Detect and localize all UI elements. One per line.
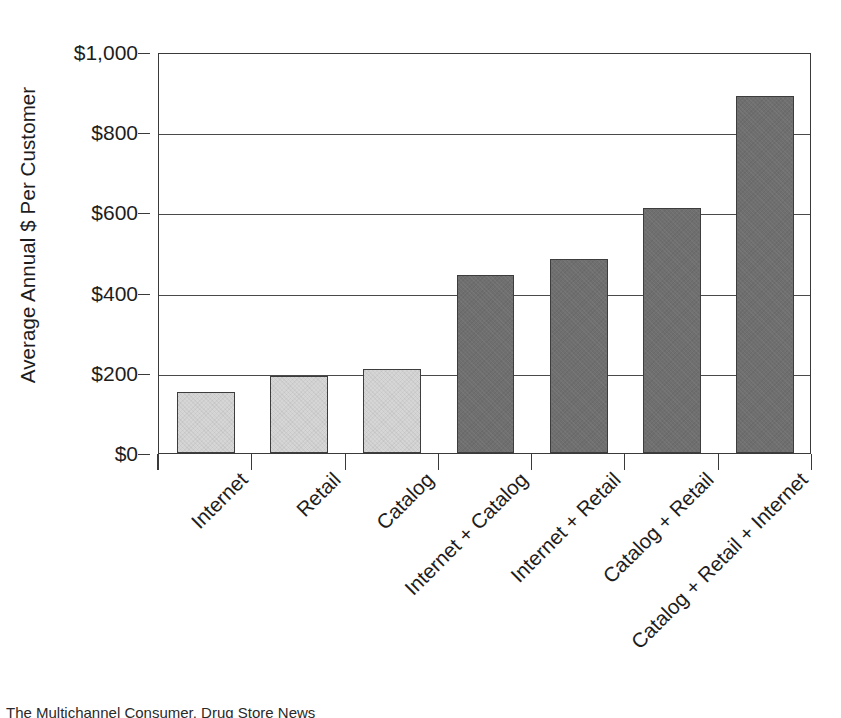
x-axis-tick-mark [251,454,252,470]
x-axis-category-label-text: Retail [292,468,346,522]
x-axis-category-label-text: Catalog + Retail [598,468,719,589]
x-axis-category-label-text: Internet + Retail [506,468,626,588]
x-axis-category-label-text: Internet [186,468,252,534]
x-axis-tick-mark [624,454,625,470]
x-axis-ticks [158,454,811,472]
y-axis-tick-label: $400 [91,282,138,306]
y-axis-tick-labels: $0$200$400$600$800$1,000 [58,0,150,470]
x-axis-tick-mark [158,454,159,470]
x-axis-category-label-text: Catalog + Retail + Internet [626,468,812,654]
x-axis-category-label-text: Catalog [372,468,439,535]
bar [643,208,701,453]
x-axis-category-label-text: Internet + Catalog [400,468,533,601]
bar [270,376,328,453]
y-axis-tick-mark [138,454,150,455]
source-caption-text: The Multichannel Consumer, Drug Store Ne… [6,706,506,718]
y-axis-tick-mark [138,213,150,214]
y-axis-tick-mark [138,294,150,295]
bar [177,392,235,453]
bar [550,259,608,453]
x-axis-tick-mark [345,454,346,470]
y-axis-tick-mark [138,133,150,134]
x-axis-tick-mark [438,454,439,470]
bar [457,275,515,453]
x-axis-tick-mark [811,454,812,470]
bar-chart-figure: Average Annual $ Per Customer $0$200$400… [0,0,841,718]
bars-layer [159,54,810,453]
source-caption: The Multichannel Consumer, Drug Store Ne… [6,706,506,718]
y-axis-tick-label: $200 [91,362,138,386]
y-axis-tick-label: $1,000 [74,41,138,65]
plot-area [158,53,811,454]
bar [736,96,794,453]
y-axis-tick-label: $600 [91,201,138,225]
y-axis-tick-label: $800 [91,121,138,145]
x-axis-tick-mark [531,454,532,470]
y-axis-title: Average Annual $ Per Customer [0,0,56,470]
y-axis-title-text: Average Annual $ Per Customer [16,87,40,384]
y-axis-tick-label: $0 [115,442,138,466]
bar [363,369,421,453]
x-axis-tick-mark [718,454,719,470]
y-axis-tick-mark [138,374,150,375]
y-axis-tick-mark [138,53,150,54]
